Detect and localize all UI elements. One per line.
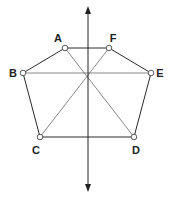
- vertices: [20, 45, 154, 140]
- vertex-label-D: D: [132, 144, 140, 156]
- edge-BA: [23, 48, 65, 73]
- axis-arrow-up-icon: [85, 6, 91, 14]
- hexagon-diagram: AFEDCB: [0, 0, 171, 198]
- edge-CB: [23, 73, 40, 137]
- vertex-E: [148, 70, 154, 76]
- diagonal-AD: [65, 48, 134, 137]
- hexagon-edges: [23, 48, 151, 137]
- vertex-C: [37, 134, 43, 140]
- diagonal-FC: [40, 48, 109, 137]
- vertex-B: [20, 70, 26, 76]
- vertex-label-C: C: [32, 144, 40, 156]
- vertex-A: [62, 45, 68, 51]
- vertex-label-E: E: [156, 67, 163, 79]
- vertex-label-B: B: [9, 67, 17, 79]
- axis-arrow-down-icon: [85, 184, 91, 192]
- vertex-D: [131, 134, 137, 140]
- edge-FE: [109, 48, 151, 73]
- edge-ED: [134, 73, 151, 137]
- vertex-label-F: F: [110, 32, 117, 44]
- vertex-label-A: A: [54, 32, 62, 44]
- vertex-F: [106, 45, 112, 51]
